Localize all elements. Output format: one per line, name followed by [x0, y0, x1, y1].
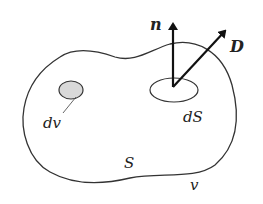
label-ds: dS: [183, 108, 203, 126]
label-d: D: [229, 37, 244, 56]
label-s: S: [124, 154, 134, 172]
label-dv: dv: [43, 114, 62, 132]
diagram-canvas: n D dS dv S v: [0, 0, 263, 204]
volume-element-dv: [59, 81, 83, 99]
label-n: n: [150, 15, 162, 34]
field-vector-arrow: [173, 31, 225, 87]
label-v: v: [190, 176, 199, 194]
